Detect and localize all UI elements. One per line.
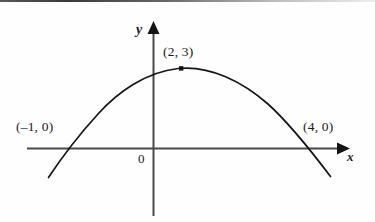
x-axis-label: x	[347, 150, 354, 163]
parabola-plot	[0, 0, 375, 222]
y-axis-label: y	[136, 23, 142, 37]
graph-figure: y x (2, 3) (–1, 0) (4, 0) 0	[0, 0, 375, 222]
parabola-curve	[49, 68, 331, 177]
right-intercept-label: (4, 0)	[303, 120, 333, 134]
origin-label: 0	[138, 152, 145, 165]
left-intercept-label: (–1, 0)	[16, 120, 53, 134]
vertex-point-label: (2, 3)	[163, 45, 193, 59]
vertex-point-marker	[179, 66, 183, 70]
y-axis-arrowhead	[148, 21, 160, 34]
